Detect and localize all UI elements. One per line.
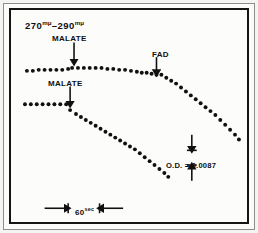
data-point (189, 93, 193, 97)
wavelength-end-value: 290 (57, 20, 74, 31)
data-point (94, 124, 98, 128)
data-point (140, 71, 144, 75)
data-point (179, 86, 183, 90)
data-point (169, 79, 173, 83)
fad-label: FAD (152, 51, 169, 59)
data-point (204, 105, 208, 109)
plot-box: 270mμ–290mμ MALATE MALATE FAD O.D. = 0.0… (9, 8, 249, 224)
data-point (133, 147, 137, 151)
data-point (184, 90, 188, 94)
wavelength-start-unit: mμ (42, 19, 51, 26)
data-point (84, 118, 88, 122)
data-point (37, 68, 41, 72)
data-point (164, 76, 168, 80)
data-point (209, 109, 213, 113)
trace-upper-trace-baseline (25, 67, 70, 73)
data-point (35, 102, 39, 106)
data-point (105, 67, 109, 71)
data-point (145, 71, 149, 75)
wavelength-end-unit: mμ (75, 19, 84, 26)
data-point (82, 66, 86, 70)
data-point (138, 151, 142, 155)
data-point (111, 67, 115, 71)
figure-root: 270mμ–290mμ MALATE MALATE FAD O.D. = 0.0… (0, 0, 258, 233)
data-point (29, 102, 33, 106)
data-point (54, 68, 58, 72)
data-point (199, 101, 203, 105)
data-point (174, 82, 178, 86)
malate-upper-label: MALATE (52, 35, 87, 43)
data-point (108, 133, 112, 137)
time-scale-unit: sec (85, 206, 95, 212)
data-point (155, 73, 159, 77)
data-point (159, 73, 163, 77)
data-point (79, 115, 83, 119)
data-point (150, 72, 154, 76)
trace-lower-trace-post-malate (68, 108, 170, 179)
data-point (68, 108, 72, 112)
data-point (74, 112, 78, 116)
trace-upper-trace-post-fad (159, 73, 240, 142)
data-point (47, 102, 51, 106)
data-point (129, 69, 133, 73)
data-point (166, 175, 170, 179)
od-scale-bar (187, 135, 197, 181)
data-point (52, 102, 56, 106)
data-point (237, 138, 241, 142)
data-point (153, 163, 157, 167)
data-point (213, 113, 217, 117)
data-point (233, 133, 237, 137)
data-point (88, 66, 92, 70)
data-point (58, 102, 62, 106)
data-point (43, 68, 47, 72)
data-point (89, 121, 93, 125)
data-point (118, 139, 122, 143)
data-point (123, 68, 127, 72)
data-point (25, 69, 29, 73)
data-point (135, 70, 139, 74)
data-point (99, 127, 103, 131)
trace-upper-trace-post-malate (70, 66, 158, 77)
data-point (66, 67, 70, 71)
data-point (223, 123, 227, 127)
data-point (113, 136, 117, 140)
trace-lower-trace-baseline (23, 102, 68, 106)
data-point (49, 68, 53, 72)
plot-area (11, 10, 247, 222)
data-point (76, 66, 80, 70)
data-point (60, 68, 64, 72)
data-point (157, 167, 161, 171)
data-point (148, 159, 152, 163)
data-point (128, 144, 132, 148)
scalebars-layer (45, 135, 197, 214)
data-point (103, 130, 107, 134)
data-point (64, 102, 68, 106)
data-point (162, 171, 166, 175)
od-scale-label: O.D. = 0.0087 (166, 162, 216, 170)
time-scale-label: 60sec (75, 207, 94, 217)
data-point (117, 68, 121, 72)
data-point (31, 69, 35, 73)
data-point (100, 66, 104, 70)
data-point (23, 102, 27, 106)
data-point (94, 66, 98, 70)
data-point (123, 142, 127, 146)
data-point (218, 118, 222, 122)
data-point (194, 97, 198, 101)
data-point (70, 66, 74, 70)
data-point (143, 155, 147, 159)
data-point (41, 102, 45, 106)
time-scale-value: 60 (75, 208, 85, 217)
wavelength-start-value: 270 (25, 20, 42, 31)
wavelength-axis-label: 270mμ–290mμ (25, 20, 84, 31)
malate-lower-label: MALATE (48, 80, 83, 88)
data-point (228, 128, 232, 132)
